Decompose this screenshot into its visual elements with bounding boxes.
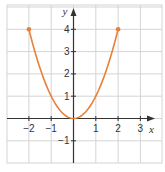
y-tick-label: 3 — [64, 46, 70, 57]
y-tick-label: 4 — [64, 24, 70, 35]
x-axis-arrow-icon — [147, 116, 155, 122]
y-tick-label: 1 — [64, 91, 70, 102]
endpoint-dot — [27, 27, 32, 32]
x-tick-label: 3 — [138, 123, 144, 134]
endpoint-dot — [116, 27, 121, 32]
x-tick-label: 1 — [93, 123, 99, 134]
x-tick-label: −2 — [23, 123, 35, 134]
y-tick-label: 2 — [64, 68, 70, 79]
y-axis-label: y — [62, 5, 68, 17]
tick-labels: −2−11234321−1 — [23, 24, 143, 147]
x-axis-label: x — [148, 123, 154, 135]
y-axis-arrow-icon — [71, 8, 77, 16]
y-tick-label: −1 — [58, 135, 70, 146]
x-tick-label: −1 — [45, 123, 57, 134]
parabola-chart: −2−11234321−1 x y — [0, 0, 165, 172]
x-tick-label: 2 — [115, 123, 121, 134]
